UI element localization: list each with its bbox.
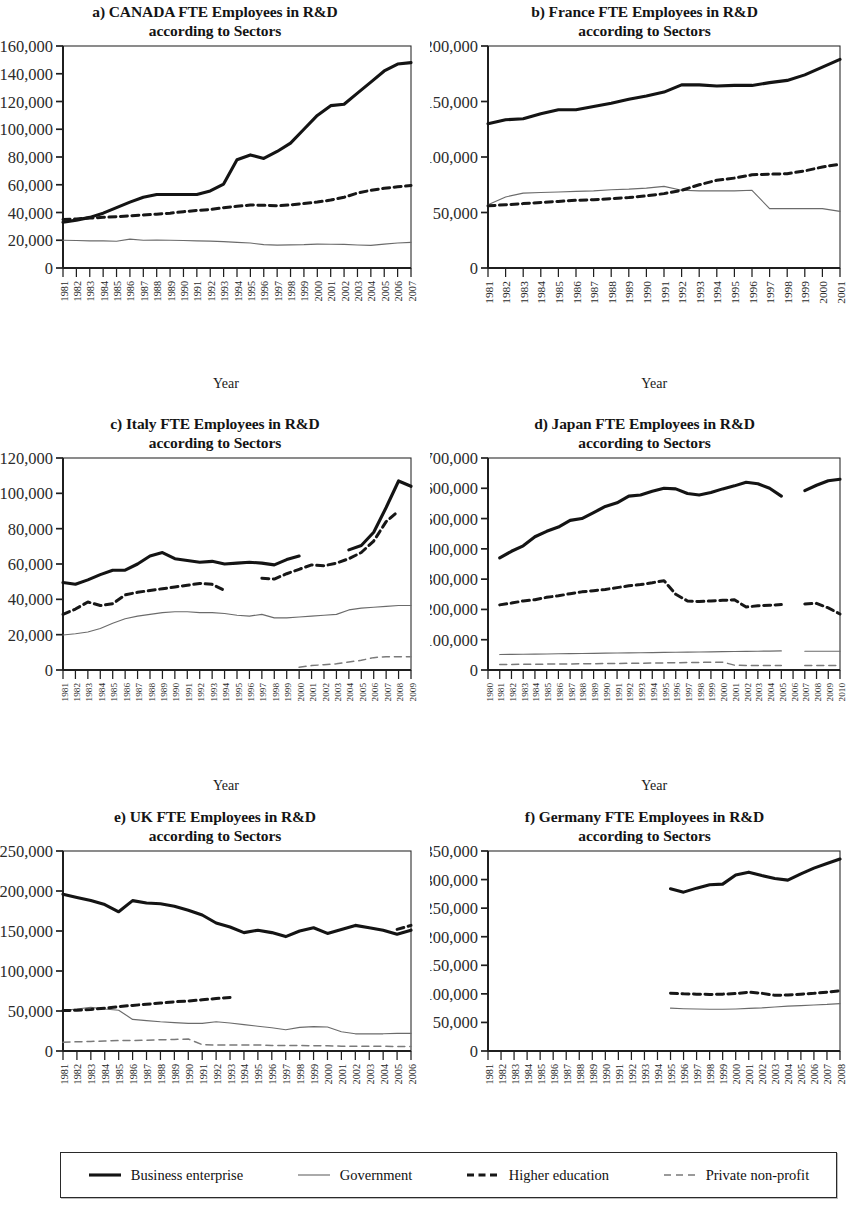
x-tick-label: 1989 [588,1064,599,1084]
x-tick-label: 1988 [152,281,163,301]
x-tick-label: 2004 [766,683,776,702]
x-tick-label: 1981 [483,281,495,304]
legend-item-2: Higher education [466,1167,609,1184]
y-tick-label: 100,000 [430,631,478,650]
y-tick-label: 300,000 [430,570,478,589]
x-tick-label: 1990 [602,683,612,702]
x-tick-label: 2008 [395,683,405,702]
y-tick-label: 50,000 [433,1013,478,1032]
x-tick-label: 1998 [271,683,281,702]
chart-title-d: d) Japan FTE Employees in R&Daccording t… [430,400,859,452]
y-tick-label: 250,000 [430,899,478,918]
plot-area-f: 050,000100,000150,000200,000250,000300,0… [430,845,859,1173]
x-tick-label: 1992 [627,1064,638,1084]
x-tick-label: 1993 [219,281,230,301]
x-tick-label: 2004 [379,1064,390,1084]
x-tick-label: 1997 [281,1064,292,1084]
y-tick-label: 20,000 [8,231,53,250]
x-tick-label: 1983 [86,1064,97,1084]
x-tick-label: 1983 [85,281,96,301]
x-tick-label: 1994 [649,683,659,702]
plot-area-c: 020,00040,00060,00080,000100,000120,0001… [0,452,430,792]
x-tick-label: 2001 [744,1064,755,1084]
x-tick-label: 2004 [366,281,377,301]
x-tick-label: 2008 [813,683,823,702]
x-tick-label: 2010 [837,683,847,702]
x-tick-label: 1989 [170,1064,181,1084]
x-tick-label: 2001 [337,1064,348,1084]
x-tick-label: 1992 [196,683,206,702]
chart-subtitle: according to Sectors [430,826,859,845]
x-tick-label: 1984 [99,281,110,301]
x-tick-label: 1990 [641,281,653,304]
x-tick-label: 1988 [606,281,618,304]
y-tick-label: 80,000 [8,520,53,539]
x-tick-label: 1996 [679,1064,690,1084]
x-tick-label: 1994 [233,281,244,301]
x-tick-label: 1996 [259,281,270,301]
x-tick-label: 1982 [72,683,82,702]
chart-title-f: f) Germany FTE Employees in R&Daccording… [430,793,859,845]
x-tick-label: 1992 [676,281,688,304]
x-tick-label: 1987 [142,1064,153,1084]
y-tick-label: 20,000 [8,626,53,645]
x-tick-label: 1987 [567,683,577,702]
x-tick-label: 1988 [578,683,588,702]
x-tick-label: 1988 [156,1064,167,1084]
x-tick-label: 2005 [380,281,391,301]
x-tick-label: 2005 [796,1064,807,1084]
x-tick-label: 1989 [159,683,169,702]
y-tick-label: 100,000 [0,120,53,139]
x-tick-label: 1990 [179,281,190,301]
x-tick-label: 1981 [59,1064,70,1084]
x-tick-label: 1985 [112,281,123,301]
x-tick-label: 1982 [72,281,83,301]
chart-panel-a: a) CANADA FTE Employees in R&Daccording … [0,2,430,392]
x-tick-label: 2007 [801,683,811,702]
y-tick-label: 150,000 [430,956,478,975]
x-tick-label: 1989 [623,281,635,304]
legend-label-2: Higher education [509,1167,609,1184]
y-tick-label: 40,000 [8,204,53,223]
x-tick-label: 1999 [718,1064,729,1084]
x-tick-label: 2004 [345,683,355,702]
x-tick-label: 2003 [333,683,343,702]
x-tick-label: 1999 [283,683,293,702]
x-tick-label: 1991 [192,281,203,301]
chart-title-c: c) Italy FTE Employees in R&Daccording t… [0,400,430,452]
x-tick-label: 1997 [684,683,694,702]
y-tick-label: 120,000 [0,452,53,468]
x-tick-label: 1994 [221,683,231,702]
chart-title-a: a) CANADA FTE Employees in R&Daccording … [0,2,430,40]
y-tick-label: 100,000 [0,484,53,503]
x-tick-label: 2001 [326,281,337,301]
x-tick-label: 2006 [370,683,380,702]
x-tick-label: 1996 [747,281,759,304]
x-tick-label: 1995 [246,281,257,301]
x-tick-label: 1985 [543,683,553,702]
x-tick-label: 2004 [783,1064,794,1084]
x-tick-label: 1989 [590,683,600,702]
x-tick-label: 1993 [694,281,706,304]
x-tick-label: 1999 [299,281,310,301]
x-tick-label: 1991 [184,683,194,702]
y-tick-label: 140,000 [0,65,53,84]
x-tick-label: 2002 [757,1064,768,1084]
x-tick-label: 1987 [588,281,600,304]
y-tick-label: 80,000 [8,148,53,167]
x-tick-label: 1986 [571,281,583,304]
x-tick-label: 1995 [234,683,244,702]
x-tick-label: 1988 [147,683,157,702]
legend-swatch-0 [88,1170,122,1180]
x-tick-label: 1982 [497,1064,508,1084]
x-tick-label: 2001 [835,281,847,304]
x-tick-label: 1998 [782,281,794,304]
legend-swatch-1 [297,1170,331,1180]
x-tick-label: 1993 [637,683,647,702]
plot-wrapper-b: 050,000100,000150,000200,000198119821983… [430,40,859,390]
x-tick-label: 1985 [109,683,119,702]
x-tick-label: 2006 [407,1064,418,1084]
y-tick-label: 60,000 [8,176,53,195]
x-tick-label: 1998 [295,1064,306,1084]
x-tick-label: 2006 [790,683,800,702]
